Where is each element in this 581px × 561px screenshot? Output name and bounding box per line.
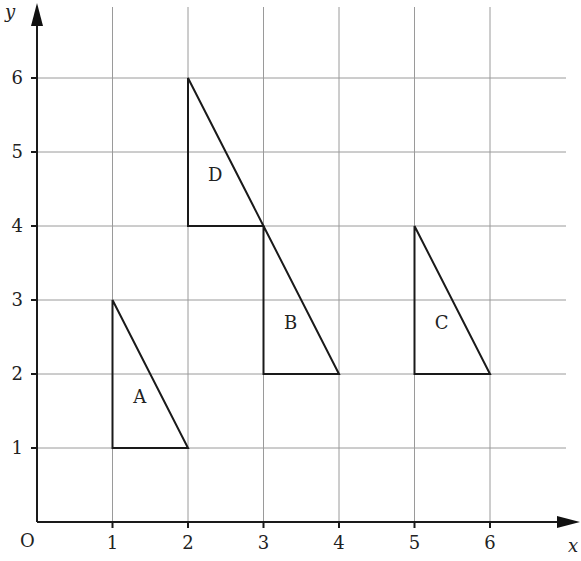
x-tick-label: 4 (333, 532, 344, 553)
origin-label: O (20, 530, 35, 551)
triangle-label-c: C (435, 312, 449, 333)
x-tick-label: 1 (107, 532, 118, 553)
triangle-label-d: D (208, 164, 222, 185)
triangle-label-b: B (284, 312, 297, 333)
x-tick-label: 5 (409, 532, 420, 553)
x-tick-label: 6 (484, 532, 495, 553)
y-axis-label: y (4, 1, 16, 22)
x-tick-label: 2 (182, 532, 193, 553)
y-tick-label: 3 (12, 289, 23, 310)
y-tick-label: 2 (12, 363, 23, 384)
y-tick-label: 6 (12, 67, 23, 88)
x-axis-label: x (568, 535, 578, 556)
y-axis-arrow-icon (31, 3, 43, 26)
y-tick-label: 4 (12, 215, 23, 236)
x-tick-label: 3 (258, 532, 269, 553)
x-axis-arrow-icon (557, 516, 580, 528)
y-tick-label: 1 (12, 437, 23, 458)
coordinate-grid-diagram: 123456123456OxyABCD (0, 0, 581, 561)
triangle-label-a: A (132, 386, 147, 407)
y-tick-label: 5 (12, 141, 23, 162)
